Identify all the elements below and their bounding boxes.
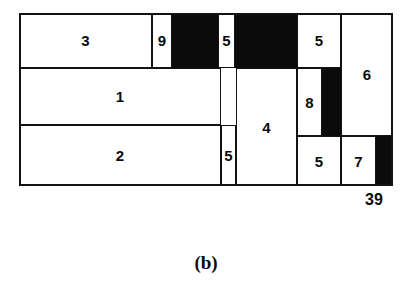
packed-rect-5: 5	[218, 13, 235, 68]
packed-rect-label: 5	[315, 33, 323, 48]
waste-region	[235, 13, 297, 68]
packed-rect-label: 8	[305, 95, 313, 110]
packed-rect-label: 2	[116, 148, 124, 163]
packed-rect-8: 8	[297, 68, 322, 136]
packed-rect-label: 9	[158, 33, 166, 48]
figure-root: 395561482557 39 (b)	[0, 0, 412, 291]
packed-rect-label: 1	[116, 89, 124, 104]
packed-rect-3: 3	[19, 13, 152, 68]
figure-caption: (b)	[0, 252, 412, 274]
strip-packing-diagram: 395561482557	[19, 13, 393, 186]
packed-rect-9: 9	[152, 13, 172, 68]
packed-rect-label: 7	[354, 154, 362, 169]
packed-rect-5: 5	[297, 136, 341, 186]
packed-rect-4: 4	[236, 68, 297, 186]
waste-region	[376, 136, 393, 186]
packed-rect-label: 6	[363, 67, 371, 82]
packed-rect-label: 5	[315, 154, 323, 169]
packed-rect-5: 5	[221, 125, 236, 186]
packed-rect-1: 1	[19, 68, 221, 125]
packed-rect-label: 3	[81, 33, 89, 48]
waste-region	[172, 13, 218, 68]
packed-rect-label: 5	[224, 148, 232, 163]
packed-rect-6: 6	[341, 13, 393, 136]
waste-region	[322, 68, 341, 136]
packed-rect-label: 4	[262, 120, 270, 135]
strip-height-label: 39	[352, 191, 396, 209]
packed-rect-2: 2	[19, 125, 221, 186]
packed-rect-7: 7	[341, 136, 376, 186]
packed-rect-label: 5	[222, 33, 230, 48]
packed-rect-5: 5	[297, 13, 341, 68]
